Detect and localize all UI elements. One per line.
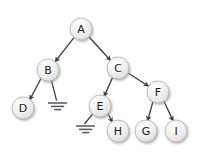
node-circle[interactable]	[165, 120, 187, 142]
null-markers-layer	[48, 103, 95, 133]
edge-f-i	[164, 101, 173, 121]
edge-e-null	[84, 114, 93, 124]
tree-node-a[interactable]: A	[70, 18, 92, 40]
node-circle[interactable]	[107, 57, 129, 79]
tree-node-d[interactable]: D	[12, 97, 34, 119]
null-ground-icon	[76, 126, 95, 133]
tree-node-g[interactable]: G	[135, 120, 157, 142]
tree-node-e[interactable]: E	[89, 95, 111, 117]
edge-a-c	[88, 36, 110, 60]
tree-node-i[interactable]: I	[165, 120, 187, 142]
node-circle[interactable]	[12, 97, 34, 119]
tree-graphic: A B C D E F H	[0, 0, 200, 159]
edge-b-null	[52, 81, 57, 101]
node-circle[interactable]	[107, 120, 129, 142]
node-circle[interactable]	[37, 59, 59, 81]
node-circle[interactable]	[89, 95, 111, 117]
binary-tree-diagram: A B C D E F H	[0, 0, 200, 159]
node-circle[interactable]	[147, 81, 169, 103]
nodes-layer: A B C D E F H	[12, 18, 187, 142]
edge-c-f	[128, 73, 148, 86]
edge-c-e	[104, 77, 113, 96]
null-ground-icon	[48, 103, 67, 110]
node-circle[interactable]	[135, 120, 157, 142]
edge-a-b	[55, 37, 74, 61]
tree-node-c[interactable]: C	[107, 57, 129, 79]
tree-node-f[interactable]: F	[147, 81, 169, 103]
edge-e-h	[108, 113, 113, 122]
edge-b-d	[30, 79, 41, 101]
edge-f-g	[148, 101, 154, 121]
node-circle[interactable]	[70, 18, 92, 40]
tree-node-b[interactable]: B	[37, 59, 59, 81]
tree-node-h[interactable]: H	[107, 120, 129, 142]
